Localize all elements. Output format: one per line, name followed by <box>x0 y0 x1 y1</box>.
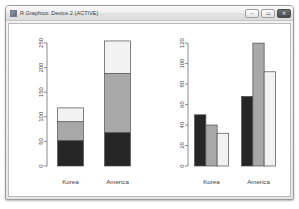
bar <box>264 72 275 166</box>
y-tick-label: 0 <box>38 164 44 168</box>
bar-segment <box>58 140 84 166</box>
maximize-button[interactable]: ▭ <box>261 9 275 18</box>
bar <box>194 115 205 166</box>
bar-segment <box>105 73 131 132</box>
y-tick-label: 60 <box>178 101 184 108</box>
plot-canvas: 050100150200250KoreaAmerica 020406080100… <box>9 24 290 196</box>
r-graphics-icon <box>10 10 17 17</box>
minimize-button[interactable]: – <box>245 9 259 18</box>
window-titlebar[interactable]: R Graphics: Device 2 (ACTIVE) – ▭ ✕ <box>6 6 293 21</box>
x-category-label: Korea <box>203 178 220 185</box>
grouped-barplot: 020406080100120KoreaAmerica <box>150 24 292 198</box>
bar-segment <box>58 108 84 122</box>
x-category-label: America <box>106 178 129 185</box>
bar <box>217 133 228 166</box>
x-category-label: Korea <box>62 178 79 185</box>
window-title: R Graphics: Device 2 (ACTIVE) <box>20 10 245 17</box>
y-tick-label: 250 <box>38 37 44 48</box>
grouped-barplot-panel: 020406080100120KoreaAmerica <box>150 24 291 196</box>
y-tick-label: 120 <box>178 37 184 48</box>
bar <box>252 43 263 166</box>
y-tick-label: 100 <box>178 58 184 69</box>
y-tick-label: 200 <box>38 62 44 73</box>
graphics-client-area: 050100150200250KoreaAmerica 020406080100… <box>8 23 291 197</box>
close-button[interactable]: ✕ <box>277 9 291 18</box>
x-category-label: America <box>247 178 270 185</box>
close-icon: ✕ <box>282 11 286 16</box>
bar <box>241 96 252 166</box>
r-graphics-window: R Graphics: Device 2 (ACTIVE) – ▭ ✕ 0501… <box>5 5 294 200</box>
stacked-barplot: 050100150200250KoreaAmerica <box>9 24 151 198</box>
window-controls: – ▭ ✕ <box>245 9 291 18</box>
maximize-icon: ▭ <box>266 11 271 16</box>
y-tick-label: 50 <box>38 137 44 144</box>
y-tick-label: 100 <box>38 111 44 122</box>
bar-segment <box>105 133 131 166</box>
y-tick-label: 0 <box>178 164 184 168</box>
y-tick-label: 150 <box>38 86 44 97</box>
y-tick-label: 40 <box>178 121 184 128</box>
stacked-barplot-panel: 050100150200250KoreaAmerica <box>9 24 150 196</box>
y-tick-label: 80 <box>178 80 184 87</box>
bar-segment <box>105 41 131 73</box>
minimize-icon: – <box>251 11 254 16</box>
y-tick-label: 20 <box>178 142 184 149</box>
bar-segment <box>58 122 84 141</box>
bar <box>205 125 216 166</box>
